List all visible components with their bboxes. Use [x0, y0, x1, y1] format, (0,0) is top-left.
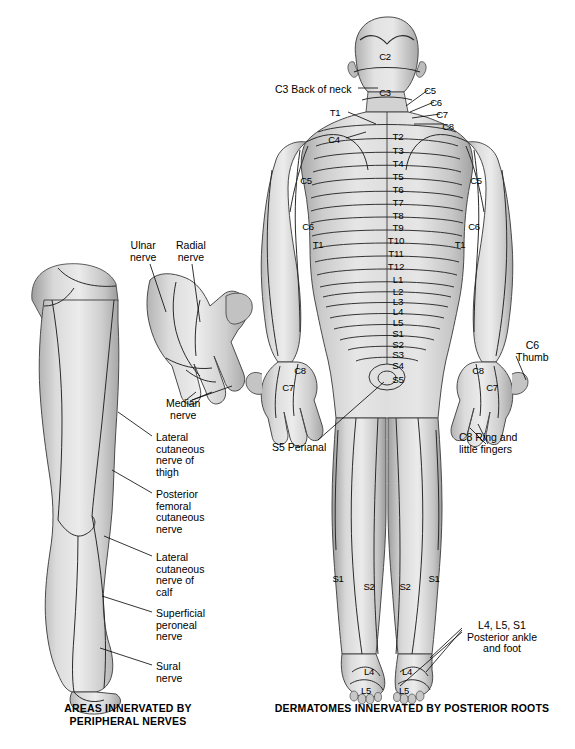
dermatome-body-drawing	[246, 17, 528, 704]
callout-l4-l5-s1-posterior-ankle-and-foot: L4, L5, S1Posterior ankleand foot	[467, 620, 537, 655]
dermatome-label-t5-spine: T5	[388, 172, 408, 182]
nerve-label-posterior-femoral-cutaneous-nerve: Posteriorfemoralcutaneousnerve	[156, 489, 204, 535]
dermatome-label-s2-leg: S2	[359, 582, 379, 592]
dermatome-label-l4-leg: L4	[397, 667, 417, 677]
right-panel-caption: DERMATOMES INNERVATED BY POSTERIOR ROOTS	[252, 702, 572, 715]
nerve-label-superficial-peroneal-nerve: Superficialperonealnerve	[156, 608, 205, 643]
callout-c3-back-of-neck: C3 Back of neck	[275, 84, 351, 96]
nerve-label-ulnar-nerve: Ulnarnerve	[130, 240, 156, 263]
dermatome-label-t9-spine: T9	[388, 223, 408, 233]
callout-c6-thumb: C6Thumb	[516, 340, 549, 363]
dermatome-label-c4-neck: C4	[324, 135, 344, 145]
dermatome-label-s4-spine: S4	[388, 361, 408, 371]
dermatome-label-t1-neck: T1	[325, 108, 345, 118]
dermatome-label-c3-head: C3	[375, 88, 395, 98]
dermatome-label-t1-right-arm: T1	[450, 240, 470, 250]
figure-canvas: UlnarnerveRadialnerveMediannerveLateralc…	[0, 0, 575, 749]
dermatome-label-c6-right-arm: C6	[464, 222, 484, 232]
dermatome-label-s2-leg: S2	[395, 582, 415, 592]
dermatome-label-c8-neck: C8	[438, 122, 458, 132]
dermatome-label-l5-leg: L5	[356, 686, 376, 696]
nerve-label-lateral-cutaneous-nerve-of-thigh: Lateralcutaneousnerve ofthigh	[156, 432, 204, 478]
nerve-label-lateral-cutaneous-nerve-of-calf: Lateralcutaneousnerve ofcalf	[156, 552, 204, 598]
dermatome-label-l5-leg: L5	[394, 686, 414, 696]
dermatome-label-c5-neck: C5	[420, 86, 440, 96]
nerve-label-radial-nerve: Radialnerve	[176, 240, 206, 263]
dermatome-label-s3-spine: S3	[388, 350, 408, 360]
dermatome-label-s1-leg: S1	[424, 574, 444, 584]
dermatome-label-t1-left-arm: T1	[308, 240, 328, 250]
dermatome-label-c6-neck: C6	[426, 98, 446, 108]
dermatome-label-t12-spine: T12	[386, 262, 406, 272]
dermatome-label-c7-neck: C7	[432, 110, 452, 120]
callout-s5-perianal: S5 Perianal	[272, 442, 326, 454]
dermatome-label-c2-head: C2	[375, 52, 395, 62]
dermatome-label-t2-spine: T2	[388, 132, 408, 142]
left-panel-caption: AREAS INNERVATED BYPERIPHERAL NERVES	[16, 702, 240, 728]
dermatome-label-t11-spine: T11	[386, 249, 406, 259]
nerve-label-sural-nerve: Suralnerve	[156, 661, 182, 684]
dermatome-label-t8-spine: T8	[388, 211, 408, 221]
callout-c8-ring-and-little-fingers: C8 Ring andlittle fingers	[459, 432, 517, 455]
dermatome-label-c5-right-arm: C5	[466, 176, 486, 186]
nerve-label-median-nerve: Mediannerve	[166, 398, 200, 421]
dermatome-label-s1-spine: S1	[388, 329, 408, 339]
dermatome-label-c8-right-arm: C8	[468, 366, 488, 376]
dermatome-label-s5-spine: S5	[388, 375, 408, 385]
dermatome-label-t7-spine: T7	[388, 198, 408, 208]
dermatome-label-c7-left-arm: C7	[278, 383, 298, 393]
peripheral-hand-drawing	[147, 264, 252, 405]
dermatome-label-t3-spine: T3	[388, 146, 408, 156]
dermatome-label-l5-spine: L5	[388, 318, 408, 328]
dermatome-label-c5-left-arm: C5	[296, 176, 316, 186]
dermatome-label-t4-spine: T4	[388, 159, 408, 169]
dermatome-label-l4-spine: L4	[388, 307, 408, 317]
dermatome-label-c8-left-arm: C8	[290, 366, 310, 376]
dermatome-label-t6-spine: T6	[388, 185, 408, 195]
dermatome-label-l4-leg: L4	[359, 667, 379, 677]
peripheral-leg-drawing	[32, 264, 152, 714]
dermatome-label-t10-spine: T10	[386, 236, 406, 246]
dermatome-label-s1-leg: S1	[328, 574, 348, 584]
dermatome-label-l1-spine: L1	[388, 275, 408, 285]
dermatome-label-c7-right-arm: C7	[482, 383, 502, 393]
dermatome-label-c6-left-arm: C6	[298, 222, 318, 232]
